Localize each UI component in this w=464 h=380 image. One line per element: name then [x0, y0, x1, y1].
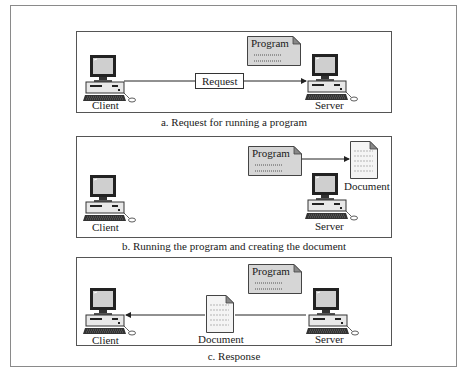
document-label: Document: [198, 333, 244, 345]
document-icon: [206, 295, 234, 333]
caption-c: c. Response: [76, 350, 392, 362]
